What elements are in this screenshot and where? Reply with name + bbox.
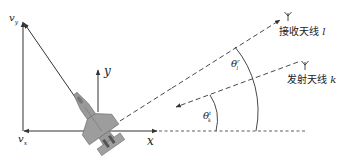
- theta-l-sub: l: [236, 65, 238, 71]
- body-x-axis-label: x: [147, 134, 154, 148]
- vx-label: vx: [18, 133, 27, 146]
- vy-label-sub: y: [15, 18, 18, 25]
- tx-antenna-text: 发射天线: [287, 74, 327, 85]
- tx-antenna-var: k: [330, 74, 336, 85]
- rx-antenna-var: l: [322, 26, 325, 37]
- theta-k-sup: t: [209, 110, 211, 116]
- theta-k-arc: [210, 95, 217, 131]
- tx-antenna-icon: [302, 61, 309, 70]
- theta-l-label: θrl: [231, 58, 238, 71]
- body-y-axis-label: y: [104, 64, 111, 78]
- rx-antenna-label: 接收天线 l: [279, 23, 325, 38]
- rx-direction-line-ext: [120, 88, 172, 121]
- theta-k-label: θtk: [203, 110, 211, 123]
- vy-label: vy: [9, 12, 18, 25]
- vx-label-sub: x: [24, 139, 27, 146]
- tx-antenna-label: 发射天线 k: [287, 71, 336, 86]
- theta-l-sup: r: [237, 58, 239, 64]
- rx-direction-line: [172, 20, 280, 88]
- theta-k-sub: k: [208, 117, 211, 123]
- rx-antenna-icon: [285, 12, 292, 21]
- aircraft-icon: [61, 83, 128, 158]
- rx-antenna-text: 接收天线: [279, 26, 319, 37]
